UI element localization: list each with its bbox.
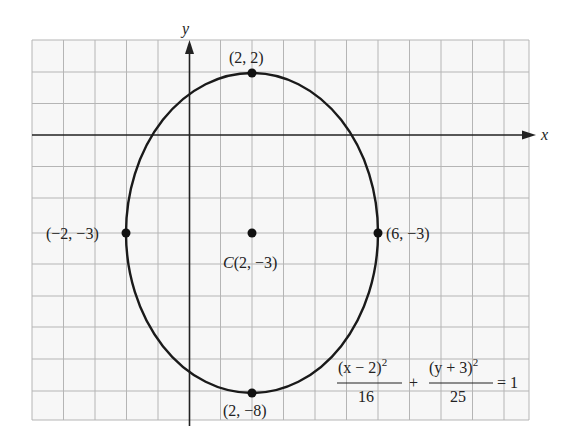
equation-term2-numerator: (y + 3)2 xyxy=(429,356,478,377)
covertex-right-label: (6, −3) xyxy=(386,225,430,243)
vertex-bottom-label: (2, −8) xyxy=(223,402,267,420)
covertex-left-label: (−2, −3) xyxy=(46,225,99,243)
vertex-top-point xyxy=(248,69,257,78)
equation-term1-numerator: (x − 2)2 xyxy=(338,356,387,377)
covertex-left-point xyxy=(122,229,131,238)
ellipse-diagram: x y (2, 2) (−2, −3) (6, −3) C(2, −3) (2,… xyxy=(0,0,561,444)
x-axis-label: x xyxy=(540,126,548,143)
covertex-right-point xyxy=(374,229,383,238)
equation-plus: + xyxy=(409,374,418,391)
center-label: C(2, −3) xyxy=(223,254,277,272)
center-label-coords: (2, −3) xyxy=(234,254,278,272)
center-point xyxy=(248,229,257,238)
equation-rhs: = 1 xyxy=(497,374,518,391)
vertex-bottom-point xyxy=(248,389,257,398)
vertex-top-label: (2, 2) xyxy=(229,49,264,67)
center-label-prefix: C xyxy=(223,254,234,271)
equation-term1-denominator: 16 xyxy=(358,388,374,405)
y-axis-label: y xyxy=(180,20,190,38)
equation-term2-denominator: 25 xyxy=(450,388,466,405)
